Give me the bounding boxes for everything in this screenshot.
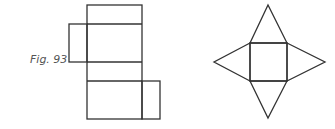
pyramid-base [250,43,287,81]
pyramid-face-left [214,43,250,81]
cuboid-net [69,5,160,119]
cuboid-net-left-flap [69,24,87,62]
figure-drawing [0,0,335,129]
pyramid-face-bottom [250,81,287,118]
pyramid-face-top [250,5,287,43]
square-pyramid-net [214,5,325,118]
cuboid-net-right-flap [142,81,160,119]
pyramid-face-right [287,43,325,81]
